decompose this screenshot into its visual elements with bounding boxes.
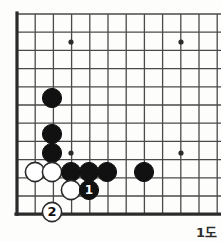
black-stone-disc [79,162,98,181]
black-stone-move-1[interactable]: 1 [79,180,98,199]
board-edge-lines [16,13,221,214]
black-stone[interactable] [42,143,61,162]
black-stone-disc [97,162,116,181]
white-stone[interactable] [61,180,80,199]
white-stone-move-2[interactable]: 2 [42,202,61,221]
white-stone-disc [42,162,61,181]
black-stone-disc [134,162,153,181]
figure-caption: 1도 [196,226,217,239]
go-diagram-figure: 12 1도 [0,0,221,242]
stone-move-number: 1 [85,183,93,197]
black-stone-disc [42,88,61,107]
black-stone-disc [61,162,80,181]
black-stone[interactable] [134,162,153,181]
go-board: 12 [0,0,221,242]
stone-move-number: 2 [47,204,56,219]
star-point [178,39,183,44]
black-stone[interactable] [42,88,61,107]
black-stone[interactable] [61,162,80,181]
board-grid-lines [17,14,221,214]
star-point [178,150,183,155]
white-stone-disc [61,180,80,199]
black-stone[interactable] [97,162,116,181]
star-point [68,150,73,155]
black-stone[interactable] [79,162,98,181]
black-stone-disc [42,124,61,143]
white-stone[interactable] [42,162,61,181]
black-stone[interactable] [42,124,61,143]
star-point [68,39,73,44]
black-stone-disc [42,143,61,162]
